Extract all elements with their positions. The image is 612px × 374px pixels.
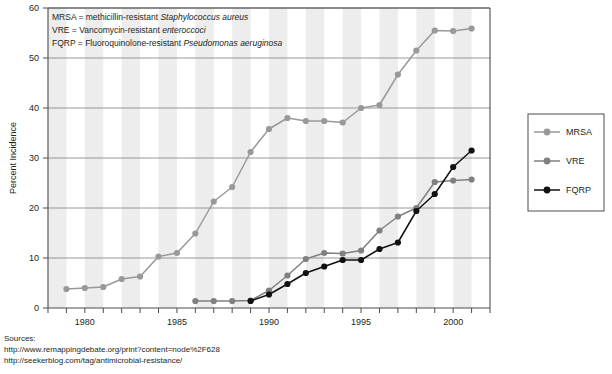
incidence-line-chart: 19801985199019952000 0102030405060 Perce…: [0, 0, 612, 374]
data-point: [284, 115, 290, 121]
data-point: [247, 149, 253, 155]
data-point: [340, 119, 346, 125]
data-point: [303, 118, 309, 124]
data-point: [432, 27, 438, 33]
source-url[interactable]: http://www.remappingdebate.org/print?con…: [4, 345, 220, 354]
data-point: [413, 208, 419, 214]
data-point: [100, 284, 106, 290]
x-tick-label: 1995: [351, 317, 371, 327]
abbreviation-line: VRE = Vancomycin-resistant enteroccoci: [52, 25, 207, 35]
legend-item-label: FQRP: [566, 185, 591, 195]
data-point: [155, 253, 161, 259]
data-point: [266, 126, 272, 132]
data-point: [284, 272, 290, 278]
abbreviation-line: MRSA = methicillin-resistant Staphylococ…: [52, 12, 249, 22]
data-point: [450, 28, 456, 34]
data-point: [395, 213, 401, 219]
y-tick-label: 50: [29, 53, 39, 63]
data-point: [413, 47, 419, 53]
data-point: [340, 250, 346, 256]
y-tick-label: 0: [34, 303, 39, 313]
x-tick-label: 1985: [167, 317, 187, 327]
data-point: [468, 176, 474, 182]
data-point: [82, 285, 88, 291]
legend-swatch-marker: [544, 129, 551, 136]
x-tick-label: 1990: [259, 317, 279, 327]
data-point: [450, 177, 456, 183]
legend-item-label: MRSA: [566, 127, 592, 137]
data-point: [211, 198, 217, 204]
x-tick-label: 1980: [75, 317, 95, 327]
data-point: [229, 184, 235, 190]
legend-item-label: VRE: [566, 156, 585, 166]
data-point: [63, 286, 69, 292]
data-point: [432, 191, 438, 197]
data-point: [211, 298, 217, 304]
data-point: [376, 102, 382, 108]
data-point: [450, 164, 456, 170]
data-point: [174, 250, 180, 256]
data-point: [376, 246, 382, 252]
y-tick-label: 10: [29, 253, 39, 263]
x-tick-label: 2000: [443, 317, 463, 327]
legend-swatch-marker: [544, 158, 551, 165]
data-point: [247, 298, 253, 304]
data-point: [119, 276, 125, 282]
data-point: [340, 257, 346, 263]
y-tick-label: 40: [29, 103, 39, 113]
data-point: [229, 298, 235, 304]
data-point: [358, 105, 364, 111]
data-point: [137, 273, 143, 279]
data-point: [321, 263, 327, 269]
data-point: [303, 256, 309, 262]
data-point: [395, 239, 401, 245]
data-point: [321, 250, 327, 256]
data-point: [468, 25, 474, 31]
y-axis-title-text: Percent Incidence: [8, 122, 18, 194]
y-tick-label: 30: [29, 153, 39, 163]
legend-swatch-marker: [544, 187, 551, 194]
sources-heading: Sources:: [4, 334, 36, 343]
data-point: [376, 227, 382, 233]
y-tick-label: 60: [29, 3, 39, 13]
data-point: [303, 270, 309, 276]
data-point: [284, 281, 290, 287]
y-axis-title: Percent Incidence: [8, 122, 18, 194]
data-point: [395, 71, 401, 77]
chart-figure: 19801985199019952000 0102030405060 Perce…: [0, 0, 612, 374]
source-url[interactable]: http://seekerblog.com/tag/antimicrobial-…: [4, 356, 183, 365]
data-point: [192, 298, 198, 304]
data-point: [468, 147, 474, 153]
y-tick-label: 20: [29, 203, 39, 213]
data-point: [432, 179, 438, 185]
data-point: [266, 291, 272, 297]
abbreviation-line: FQRP = Fluoroquinolone-resistant Pseudom…: [52, 38, 282, 48]
data-point: [321, 118, 327, 124]
chart-legend[interactable]: MRSAVREFQRP: [528, 114, 604, 211]
data-point: [358, 247, 364, 253]
data-point: [358, 257, 364, 263]
data-point: [192, 230, 198, 236]
